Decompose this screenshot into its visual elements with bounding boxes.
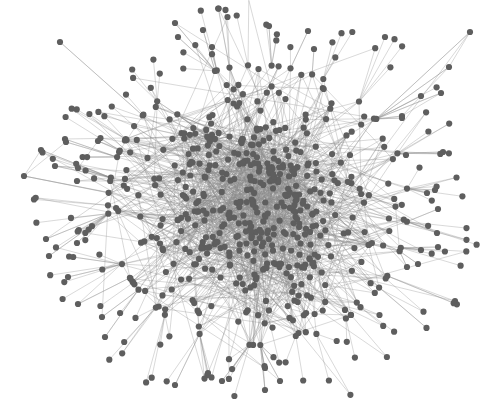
graph-node xyxy=(312,251,318,257)
graph-node xyxy=(227,262,233,268)
graph-node xyxy=(175,34,181,40)
graph-node xyxy=(84,154,90,160)
graph-node xyxy=(328,199,334,205)
graph-node xyxy=(170,261,176,267)
graph-node xyxy=(231,393,237,399)
graph-node xyxy=(304,203,310,209)
graph-node xyxy=(196,323,202,329)
graph-node xyxy=(212,136,218,142)
graph-node xyxy=(343,132,349,138)
graph-node xyxy=(180,65,186,71)
graph-node xyxy=(280,246,286,252)
graph-node xyxy=(276,63,282,69)
graph-node xyxy=(420,309,426,315)
graph-node xyxy=(368,280,374,286)
graph-node xyxy=(357,186,363,192)
graph-node xyxy=(21,173,27,179)
graph-node xyxy=(429,251,435,257)
graph-node xyxy=(234,12,240,18)
graph-node xyxy=(205,245,211,251)
graph-node xyxy=(216,130,222,136)
graph-node xyxy=(298,281,304,287)
graph-node xyxy=(62,136,68,142)
graph-node xyxy=(255,66,261,72)
graph-node xyxy=(106,357,112,363)
graph-node xyxy=(63,114,69,120)
graph-node xyxy=(312,311,318,317)
graph-node xyxy=(237,275,243,281)
graph-node xyxy=(216,143,222,149)
graph-node xyxy=(82,237,88,243)
graph-node xyxy=(219,189,225,195)
graph-node xyxy=(157,342,163,348)
graph-node xyxy=(142,288,148,294)
graph-node xyxy=(459,193,465,199)
graph-node xyxy=(309,71,315,77)
graph-node xyxy=(416,165,422,171)
graph-node xyxy=(251,190,257,196)
graph-node xyxy=(332,54,338,60)
graph-node xyxy=(435,206,441,212)
graph-node xyxy=(187,132,193,138)
graph-node xyxy=(210,207,216,213)
graph-node xyxy=(200,191,206,197)
graph-node xyxy=(391,196,397,202)
graph-node xyxy=(245,62,251,68)
graph-node xyxy=(328,100,334,106)
graph-node xyxy=(222,244,228,250)
graph-node xyxy=(331,177,337,183)
graph-node xyxy=(277,261,283,267)
graph-node xyxy=(74,178,80,184)
graph-node xyxy=(127,149,133,155)
graph-node xyxy=(451,300,457,306)
graph-node xyxy=(130,75,136,81)
graph-node xyxy=(127,276,133,282)
graph-node xyxy=(350,214,356,220)
graph-node xyxy=(380,323,386,329)
graph-node xyxy=(75,165,81,171)
graph-node xyxy=(474,242,480,248)
graph-node xyxy=(334,338,340,344)
graph-node xyxy=(172,382,178,388)
graph-node xyxy=(369,240,375,246)
graph-node xyxy=(320,218,326,224)
graph-node xyxy=(399,43,405,49)
graph-node xyxy=(257,108,263,114)
graph-node xyxy=(117,310,123,316)
graph-node xyxy=(137,213,143,219)
graph-node xyxy=(310,260,316,266)
graph-node xyxy=(262,251,268,257)
graph-node xyxy=(283,147,289,153)
graph-node xyxy=(266,236,272,242)
graph-node xyxy=(276,360,282,366)
graph-node xyxy=(196,256,202,262)
graph-node xyxy=(113,205,119,211)
graph-node xyxy=(75,301,81,307)
graph-node xyxy=(180,192,186,198)
graph-node xyxy=(358,121,364,127)
graph-node xyxy=(372,45,378,51)
graph-node xyxy=(123,136,129,142)
graph-node xyxy=(191,300,197,306)
graph-node xyxy=(271,231,277,237)
graph-node xyxy=(201,376,207,382)
graph-node xyxy=(262,320,268,326)
graph-node xyxy=(251,134,257,140)
graph-node xyxy=(269,83,275,89)
graph-node xyxy=(349,29,355,35)
graph-node xyxy=(244,252,250,258)
graph-node xyxy=(153,104,159,110)
graph-node xyxy=(387,64,393,70)
graph-node xyxy=(162,312,168,318)
graph-node xyxy=(327,106,333,112)
graph-node xyxy=(183,184,189,190)
graph-node xyxy=(270,171,276,177)
graph-node xyxy=(134,137,140,143)
graph-node xyxy=(298,72,304,78)
graph-node xyxy=(237,199,243,205)
graph-node xyxy=(240,212,246,218)
graph-node xyxy=(201,217,207,223)
graph-node xyxy=(250,258,256,264)
graph-node xyxy=(344,339,350,345)
graph-node xyxy=(257,180,263,186)
